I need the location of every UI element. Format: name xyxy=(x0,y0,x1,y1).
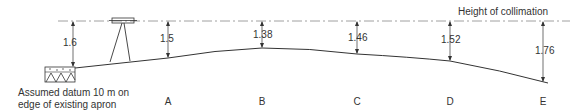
measure-D: 1.52 xyxy=(441,34,460,45)
measure-A: 1.5 xyxy=(160,33,174,44)
datum-label-line2: edge of existing apron xyxy=(18,99,116,111)
apron-icon xyxy=(45,67,75,82)
station-A: A xyxy=(158,96,178,107)
measure-C: 1.46 xyxy=(348,32,367,43)
station-D: D xyxy=(440,96,460,107)
station-C: C xyxy=(347,96,367,107)
measure-B: 1.38 xyxy=(253,29,272,40)
station-B: B xyxy=(252,96,272,107)
measure-E: 1.76 xyxy=(535,45,554,56)
datum-label-line1: Assumed datum 10 m on xyxy=(18,87,129,99)
collimation-title: Height of collimation xyxy=(458,6,548,18)
station-E: E xyxy=(533,96,553,107)
datum-measure: 1.6 xyxy=(63,37,77,48)
ground-profile xyxy=(75,48,548,83)
level-instrument-icon xyxy=(109,18,137,62)
